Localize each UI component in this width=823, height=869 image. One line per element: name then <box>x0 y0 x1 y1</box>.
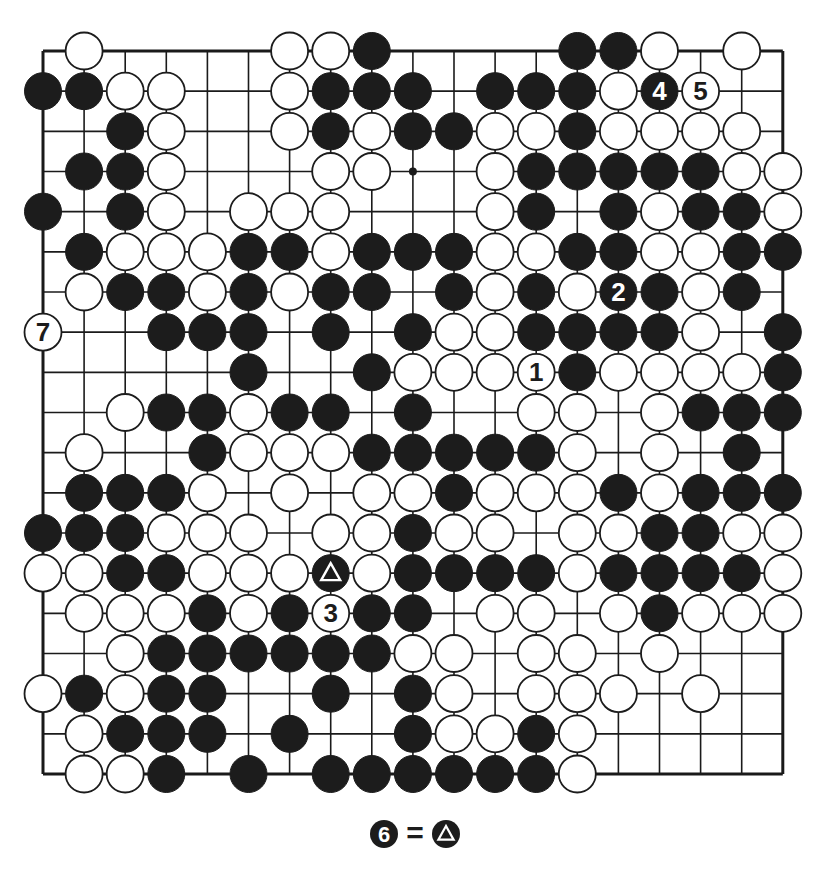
black-stone <box>107 113 144 150</box>
white-stone <box>66 555 103 592</box>
black-stone <box>148 394 185 431</box>
black-stone <box>394 113 431 150</box>
black-stone <box>353 233 390 270</box>
white-stone <box>66 33 103 70</box>
black-stone <box>312 73 349 110</box>
white-stone <box>312 33 349 70</box>
white-stone <box>641 233 678 270</box>
white-stone <box>189 274 226 311</box>
black-stone <box>394 314 431 351</box>
black-stone <box>353 635 390 672</box>
move-number-label: 3 <box>323 598 337 628</box>
white-stone <box>559 434 596 471</box>
black-stone <box>518 153 555 190</box>
white-stone <box>189 474 226 511</box>
black-stone <box>312 555 349 592</box>
black-stone <box>189 394 226 431</box>
white-stone <box>764 193 801 230</box>
white-stone <box>312 153 349 190</box>
black-stone <box>641 314 678 351</box>
white-stone <box>477 354 514 391</box>
white-stone <box>66 274 103 311</box>
black-stone <box>353 756 390 793</box>
black-stone <box>271 715 308 752</box>
black-stone <box>394 756 431 793</box>
black-stone <box>148 314 185 351</box>
black-stone <box>764 394 801 431</box>
black-stone <box>312 756 349 793</box>
black-stone <box>436 756 473 793</box>
black-stone <box>312 314 349 351</box>
white-stone <box>271 434 308 471</box>
black-stone <box>353 354 390 391</box>
black-stone <box>436 274 473 311</box>
white-stone <box>477 233 514 270</box>
white-stone <box>518 394 555 431</box>
white-stone <box>436 715 473 752</box>
white-stone <box>477 595 514 632</box>
black-stone <box>25 193 62 230</box>
black-stone <box>559 153 596 190</box>
black-stone <box>764 314 801 351</box>
white-stone <box>518 233 555 270</box>
black-stone <box>107 715 144 752</box>
white-stone <box>682 113 719 150</box>
black-stone <box>148 635 185 672</box>
white-stone <box>436 675 473 712</box>
black-stone <box>682 555 719 592</box>
white-stone <box>66 756 103 793</box>
black-stone <box>723 233 760 270</box>
move-number-label: 4 <box>652 76 667 106</box>
white-stone <box>107 595 144 632</box>
black-stone <box>271 635 308 672</box>
black-stone <box>189 675 226 712</box>
white-stone <box>66 715 103 752</box>
black-stone <box>66 515 103 552</box>
black-stone: 2 <box>600 274 637 311</box>
white-stone <box>641 474 678 511</box>
white-stone <box>107 635 144 672</box>
white-stone <box>559 555 596 592</box>
white-stone <box>641 434 678 471</box>
black-stone <box>189 715 226 752</box>
black-stone <box>436 474 473 511</box>
black-stone <box>518 756 555 793</box>
white-stone <box>25 675 62 712</box>
black-stone <box>764 354 801 391</box>
white-stone <box>559 515 596 552</box>
move-caption: 6= 6 <box>0 812 823 856</box>
white-stone <box>723 595 760 632</box>
white-stone <box>271 113 308 150</box>
white-stone <box>107 394 144 431</box>
equals-sign: = <box>406 816 424 849</box>
black-stone <box>394 715 431 752</box>
caption-triangle-stone <box>432 820 460 848</box>
white-stone <box>600 73 637 110</box>
black-stone <box>394 394 431 431</box>
black-stone <box>477 434 514 471</box>
white-stone <box>353 515 390 552</box>
black-stone <box>394 233 431 270</box>
white-stone <box>559 675 596 712</box>
black-stone <box>312 675 349 712</box>
white-stone <box>312 233 349 270</box>
black-stone <box>518 73 555 110</box>
black-stone <box>230 314 267 351</box>
white-stone <box>682 274 719 311</box>
white-stone <box>477 715 514 752</box>
white-stone <box>600 515 637 552</box>
white-stone <box>641 354 678 391</box>
black-stone <box>25 73 62 110</box>
black-stone <box>394 555 431 592</box>
black-stone <box>394 434 431 471</box>
white-stone <box>518 113 555 150</box>
black-stone <box>189 314 226 351</box>
black-stone <box>66 675 103 712</box>
white-stone <box>107 73 144 110</box>
white-stone <box>189 233 226 270</box>
black-stone <box>641 595 678 632</box>
white-stone <box>353 555 390 592</box>
white-stone <box>477 153 514 190</box>
black-stone <box>353 595 390 632</box>
black-stone <box>682 193 719 230</box>
